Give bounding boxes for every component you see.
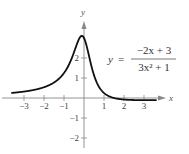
y-axis: y	[80, 7, 87, 148]
x-ticks: −3−2−1123	[19, 95, 147, 111]
equation-equals: =	[118, 53, 124, 65]
x-tick-label: 1	[102, 101, 107, 111]
y-tick-label: −2	[69, 133, 79, 143]
x-tick-label: −3	[19, 101, 29, 111]
y-tick-label: −1	[69, 113, 79, 123]
x-tick-label: −2	[39, 101, 49, 111]
y-axis-arrow-icon	[82, 21, 87, 29]
x-tick-label: 3	[142, 101, 147, 111]
x-axis-arrow-icon	[158, 96, 166, 101]
y-axis-label: y	[80, 7, 85, 17]
y-tick-label: 2	[75, 53, 80, 63]
equation-denominator: 3x² + 1	[138, 61, 170, 73]
x-axis-label: x	[168, 93, 173, 103]
function-plot: x y −3−2−1123 −2−112 y = −2x + 3 3x² + 1	[0, 0, 189, 154]
equation-label: y = −2x + 3 3x² + 1	[107, 44, 176, 73]
y-tick-label: 1	[75, 73, 80, 83]
x-tick-label: −1	[59, 101, 69, 111]
equation-lhs: y	[107, 53, 113, 65]
equation-numerator: −2x + 3	[137, 44, 172, 56]
x-tick-label: 2	[122, 101, 127, 111]
